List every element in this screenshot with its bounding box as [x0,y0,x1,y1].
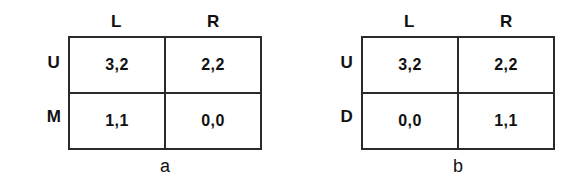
matrix-b-grid: 3,2 2,2 0,0 1,1 [361,36,555,150]
matrix-a: L R U M 3,2 2,2 1,1 0,0 [40,8,262,150]
column-header-b-l: L [361,8,458,36]
payoff-matrix-panel-b: L R U D 3,2 2,2 0,0 1,1 [293,0,586,190]
row-label-b-d: D [333,90,361,144]
row-label-b-u: U [333,36,361,90]
caption-a: a [40,156,262,177]
column-header-b-r: R [458,8,555,36]
column-header-row-b: L R [361,8,555,36]
column-header-row-a: L R [68,8,262,36]
cell-b-u-r: 2,2 [459,38,553,92]
caption-b: b [333,156,555,177]
matrix-b: L R U D 3,2 2,2 0,0 1,1 [333,8,555,150]
row-label-a-m: M [40,90,68,144]
row-label-column-b: U D [333,36,361,150]
column-header-a-l: L [68,8,165,36]
matrix-a-row-m: 1,1 0,0 [70,94,260,148]
cell-a-u-r: 2,2 [166,38,260,92]
matrix-a-grid: 3,2 2,2 1,1 0,0 [68,36,262,150]
payoff-matrix-figure: L R U M 3,2 2,2 1,1 0,0 [0,0,586,190]
cell-a-m-r: 0,0 [166,94,260,148]
matrix-a-row-u: 3,2 2,2 [70,38,260,94]
cell-a-u-l: 3,2 [70,38,166,92]
cell-b-d-r: 1,1 [459,94,553,148]
row-label-a-u: U [40,36,68,90]
matrix-b-row-d: 0,0 1,1 [363,94,553,148]
matrix-b-row-u: 3,2 2,2 [363,38,553,94]
payoff-matrix-panel-a: L R U M 3,2 2,2 1,1 0,0 [0,0,293,190]
cell-a-m-l: 1,1 [70,94,166,148]
cell-b-u-l: 3,2 [363,38,459,92]
row-label-column-a: U M [40,36,68,150]
column-header-a-r: R [165,8,262,36]
matrix-a-body: U M 3,2 2,2 1,1 0,0 [40,36,262,150]
cell-b-d-l: 0,0 [363,94,459,148]
matrix-b-body: U D 3,2 2,2 0,0 1,1 [333,36,555,150]
